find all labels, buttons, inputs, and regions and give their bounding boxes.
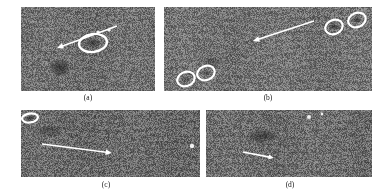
panel-caption-c: (c) bbox=[92, 180, 120, 189]
panel-caption-b: (b) bbox=[254, 93, 282, 102]
image-panel-b bbox=[164, 7, 372, 91]
image-panel-a bbox=[21, 7, 155, 91]
panel-texture-a bbox=[21, 7, 155, 91]
image-panel-d bbox=[206, 110, 372, 177]
panel-texture-c bbox=[21, 110, 200, 177]
figure-multipanel: (a)(b)(c)(d) bbox=[0, 0, 392, 196]
image-panel-c bbox=[21, 110, 200, 177]
panel-texture-b bbox=[164, 7, 372, 91]
panel-texture-d bbox=[206, 110, 372, 177]
panel-caption-d: (d) bbox=[276, 180, 304, 189]
panel-caption-a: (a) bbox=[74, 93, 102, 102]
